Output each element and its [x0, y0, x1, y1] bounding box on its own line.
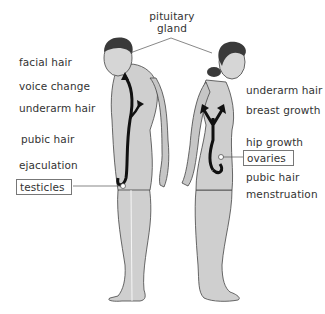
pituitary-line-2: gland — [146, 22, 198, 34]
male-label-pubic-hair: pubic hair — [21, 133, 74, 145]
female-label-menstruation: menstruation — [246, 188, 318, 200]
male-label-voice-change: voice change — [19, 80, 90, 92]
female-organ-ovaries: ovaries — [243, 150, 294, 166]
female-label-hip-growth: hip growth — [246, 136, 303, 148]
female-label-pubic-hair: pubic hair — [246, 171, 299, 183]
female-label-underarm-hair: underarm hair — [246, 84, 323, 96]
male-figure — [104, 38, 169, 302]
pituitary-line-1: pituitary — [146, 10, 198, 22]
male-label-ejaculation: ejaculation — [19, 159, 78, 171]
male-label-underarm-hair: underarm hair — [19, 102, 96, 114]
male-label-facial-hair: facial hair — [19, 56, 72, 68]
male-organ-testicles: testicles — [16, 179, 72, 195]
female-figure — [182, 42, 246, 302]
diagram-canvas: pituitary gland facial hair voice change… — [0, 0, 325, 314]
female-label-breast-growth: breast growth — [246, 104, 320, 116]
pituitary-gland-label: pituitary gland — [146, 10, 198, 34]
